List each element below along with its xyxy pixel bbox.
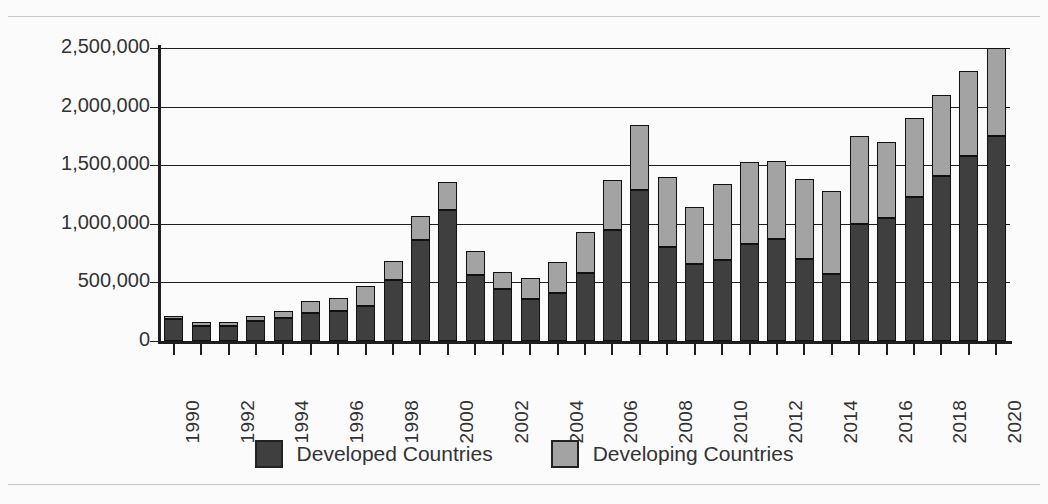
x-axis-tick [803,344,805,355]
bar-segment-developing [246,316,265,321]
bar-2007 [630,125,649,341]
bar-segment-developing [658,177,677,247]
x-axis-tick-label: 2020 [1004,400,1026,443]
x-axis-tick [228,344,230,355]
bar-segment-developed [987,136,1006,341]
legend-item-developed: Developed Countries [255,440,493,468]
y-axis-tick [150,165,160,166]
bar-segment-developing [685,207,704,263]
x-axis-tick-label: 1990 [182,400,204,443]
x-axis-tick [474,344,476,355]
plot-area: 0500,0001,000,0001,500,0002,000,0002,500… [160,48,1010,341]
bar-2017 [905,118,924,341]
bar-segment-developed [219,326,238,341]
dark-gray-swatch-icon [255,440,283,468]
bar-2003 [521,278,540,341]
x-axis-tick-label: 2004 [566,400,588,443]
bar-2011 [740,162,759,341]
bar-segment-developed [274,318,293,341]
y-axis-tick-label: 2,500,000 [12,35,150,58]
bar-2004 [548,262,567,341]
bar-segment-developed [877,218,896,341]
bar-2006 [603,180,622,341]
bar-1996 [329,298,348,341]
x-axis-tick-label: 2014 [840,400,862,443]
bar-segment-developing [192,322,211,326]
bar-2020 [987,48,1006,341]
bar-2005 [576,232,595,341]
bar-segment-developing [301,301,320,313]
bar-2008 [658,177,677,341]
bar-segment-developing [576,232,595,273]
bar-segment-developed [329,311,348,341]
bar-segment-developing [932,95,951,176]
bar-segment-developed [301,313,320,341]
bar-segment-developed [685,264,704,341]
bar-segment-developing [905,118,924,197]
x-axis-tick [913,344,915,355]
x-axis-tick-label: 1994 [291,400,313,443]
legend-label-developing: Developing Countries [593,442,794,466]
y-axis-tick [150,107,160,108]
bar-segment-developing [466,251,485,276]
bar-segment-developing [356,286,375,306]
bar-segment-developed [795,259,814,341]
bar-segment-developing [329,298,348,311]
x-axis-tick [968,344,970,355]
chart-legend: Developed Countries Developing Countries [0,440,1048,468]
top-divider-rule [8,16,1040,17]
x-axis-tick [584,344,586,355]
bar-segment-developing [987,48,1006,136]
y-axis-tick-label: 1,500,000 [12,152,150,175]
bar-segment-developing [740,162,759,244]
x-axis-tick [666,344,668,355]
y-axis-tick [150,282,160,283]
bar-segment-developing [713,184,732,260]
bar-segment-developing [795,179,814,259]
bar-2010 [713,184,732,341]
x-axis-tick [419,344,421,355]
bar-2001 [466,251,485,341]
bar-1994 [274,311,293,341]
x-axis-tick [940,344,942,355]
x-axis-tick [639,344,641,355]
bar-segment-developed [356,306,375,341]
x-axis-tick [858,344,860,355]
bar-segment-developed [932,176,951,341]
x-axis-tick-label: 2012 [785,400,807,443]
bar-segment-developing [438,182,457,210]
bar-1997 [356,286,375,341]
x-axis-tick-label: 2000 [456,400,478,443]
bar-segment-developed [548,293,567,341]
x-axis-tick [255,344,257,355]
legend-label-developed: Developed Countries [297,442,493,466]
x-axis-tick [282,344,284,355]
bar-segment-developed [905,197,924,341]
bar-segment-developed [192,326,211,341]
gridline [160,48,1010,49]
bar-segment-developed [438,210,457,341]
x-axis-tick [749,344,751,355]
bar-segment-developed [164,319,183,341]
x-axis-tick [831,344,833,355]
bar-segment-developing [411,216,430,241]
bar-2000 [438,182,457,341]
bar-2016 [877,142,896,341]
light-gray-swatch-icon [551,440,579,468]
legend-item-developing: Developing Countries [551,440,794,468]
bar-2015 [850,136,869,341]
bar-2014 [822,191,841,341]
x-axis-tick [694,344,696,355]
bar-segment-developed [493,289,512,341]
bar-segment-developing [959,71,978,155]
bar-segment-developed [411,240,430,341]
bar-segment-developing [548,262,567,292]
bar-2013 [795,179,814,341]
y-axis-tick [150,224,160,225]
bottom-divider-rule [8,484,1040,485]
bar-segment-developing [877,142,896,218]
bar-segment-developed [822,274,841,341]
bar-2009 [685,207,704,341]
bar-1999 [411,216,430,341]
bar-segment-developed [630,190,649,341]
